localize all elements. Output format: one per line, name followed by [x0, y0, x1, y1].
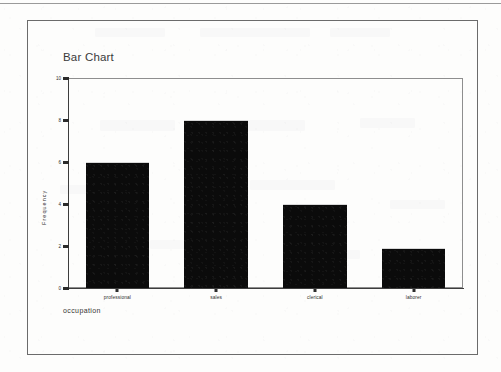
y-axis-tick-label: 6: [58, 160, 61, 165]
y-axis-tick-label: 2: [58, 244, 61, 249]
x-axis-tick: [116, 289, 119, 292]
x-axis-line: [68, 288, 464, 289]
bar-chart: Bar Chart 0246810 Frequency professional…: [27, 20, 478, 355]
x-axis-label-clerical: clerical: [307, 295, 323, 300]
x-axis-label-laborer: laborer: [406, 295, 422, 300]
bar-laborer: [382, 248, 446, 288]
bar-clerical: [283, 204, 347, 288]
x-axis-tick: [412, 289, 415, 292]
x-axis-tick: [215, 289, 218, 292]
x-axis-title: occupation: [63, 307, 101, 314]
y-axis-title: Frequency: [41, 190, 47, 225]
y-axis-tick-label: 10: [56, 76, 61, 81]
bars-layer: [68, 78, 463, 288]
x-axis-tick: [313, 289, 316, 292]
x-axis-label-sales: sales: [210, 295, 222, 300]
scanned-page: Bar Chart 0246810 Frequency professional…: [0, 0, 501, 372]
y-axis-tick-label: 0: [58, 286, 61, 291]
y-axis-tick-label: 8: [58, 118, 61, 123]
x-axis-label-professional: professional: [104, 295, 131, 300]
y-axis-tick-label: 4: [58, 202, 61, 207]
bar-professional: [86, 162, 150, 288]
bar-sales: [184, 120, 248, 288]
page-top-rule: [0, 3, 501, 4]
chart-title: Bar Chart: [63, 51, 114, 63]
